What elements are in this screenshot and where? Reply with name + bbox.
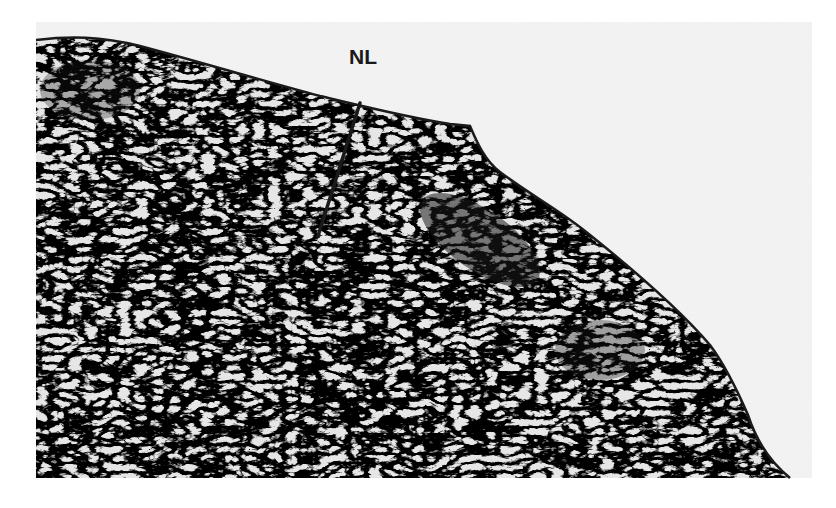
micrograph (0, 0, 836, 508)
nl-label: NL (349, 45, 377, 69)
